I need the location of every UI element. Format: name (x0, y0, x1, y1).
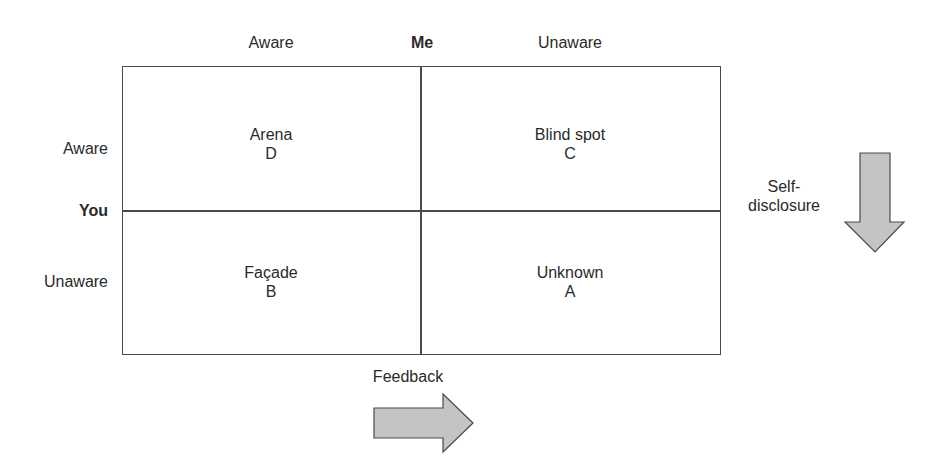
quadrant-letter: D (250, 144, 293, 163)
quadrant-facade: Façade B (244, 263, 297, 301)
down-arrow-icon (840, 150, 910, 256)
quadrant-name: Unknown (537, 263, 604, 282)
quadrant-arena: Arena D (250, 125, 293, 163)
right-arrow-icon (370, 390, 478, 456)
quadrant-letter: C (535, 144, 605, 163)
top-axis-unaware-label: Unaware (538, 34, 602, 52)
top-axis-title-me: Me (411, 34, 433, 52)
horizontal-divider (122, 210, 721, 212)
quadrant-unknown: Unknown A (537, 263, 604, 301)
self-disclosure-label: Self- disclosure (748, 177, 820, 215)
left-axis-title-you: You (79, 202, 108, 220)
top-axis-aware-label: Aware (248, 34, 293, 52)
quadrant-name: Blind spot (535, 125, 605, 144)
left-axis-aware-label: Aware (63, 140, 108, 158)
quadrant-letter: A (537, 282, 604, 301)
feedback-label: Feedback (373, 368, 443, 386)
quadrant-name: Façade (244, 263, 297, 282)
self-disclosure-line1: Self- (748, 177, 820, 196)
quadrant-letter: B (244, 282, 297, 301)
self-disclosure-line2: disclosure (748, 196, 820, 215)
quadrant-blind-spot: Blind spot C (535, 125, 605, 163)
quadrant-name: Arena (250, 125, 293, 144)
left-axis-unaware-label: Unaware (44, 273, 108, 291)
